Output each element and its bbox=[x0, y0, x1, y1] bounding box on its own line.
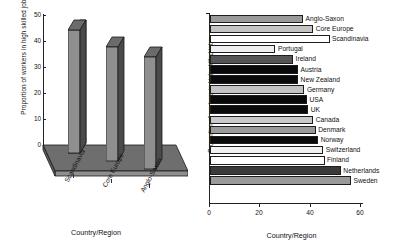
left-chart-y-axis-label: Proportion of workers in high skilled jo… bbox=[20, 0, 27, 126]
bar-label-new-zealand: New Zealand bbox=[301, 75, 340, 85]
bar-anglo-saxon[interactable] bbox=[210, 15, 303, 24]
left-chart-ytick-mark-10 bbox=[43, 119, 46, 120]
bar-label-anglo-saxon: Anglo-Saxon bbox=[306, 14, 344, 24]
bar-denmark[interactable] bbox=[210, 126, 316, 135]
right-chart-xtick-mark-60 bbox=[360, 203, 361, 207]
bar-uk[interactable] bbox=[210, 105, 308, 114]
bar-ireland[interactable] bbox=[210, 55, 293, 64]
right-chart-xtick-mark-40 bbox=[310, 203, 311, 207]
right-chart-plot-area: 0 20 40 60 Anglo-SaxonCore EuropeScandin… bbox=[209, 13, 394, 209]
bar-label-finland: Finland bbox=[327, 155, 349, 165]
left-chart-ytick-mark-50 bbox=[43, 15, 46, 16]
left-chart-plot-area: 50 40 30 20 10 0 bbox=[30, 14, 188, 226]
bar-label-switzerland: Switzerland bbox=[326, 145, 361, 155]
right-chart-xtick-0: 0 bbox=[201, 209, 217, 216]
bar-norway[interactable] bbox=[210, 136, 318, 145]
left-chart-ytick-30: 30 bbox=[28, 63, 41, 70]
bar-label-scandinavia: Scandinavia bbox=[332, 34, 368, 44]
left-chart-ytick-mark-40 bbox=[43, 41, 46, 42]
bar-label-usa: USA bbox=[309, 95, 323, 105]
bar-label-ireland: Ireland bbox=[296, 54, 316, 64]
countries-horizontal-bar-chart: Proportion of workers in high skilled jo… bbox=[190, 0, 399, 248]
bar-label-norway: Norway bbox=[321, 135, 344, 145]
left-chart-x-axis-label: Country/Region bbox=[36, 228, 156, 237]
left-chart-ytick-20: 20 bbox=[28, 89, 41, 96]
bar-anglo-saxon-shape bbox=[144, 14, 174, 174]
left-chart-ytick-0: 0 bbox=[28, 141, 41, 148]
bar-label-core-europe: Core Europe bbox=[316, 24, 354, 34]
left-chart-ytick-40: 40 bbox=[28, 37, 41, 44]
left-chart-bar-core-europe[interactable] bbox=[106, 14, 136, 168]
bar-germany[interactable] bbox=[210, 85, 304, 94]
bar-label-denmark: Denmark bbox=[318, 125, 345, 135]
bar-label-uk: UK bbox=[311, 105, 320, 115]
bar-core-europe-shape bbox=[106, 14, 136, 164]
bar-label-sweden: Sweden bbox=[353, 176, 377, 186]
left-chart-y-axis-line bbox=[43, 14, 44, 145]
left-chart-ytick-50: 50 bbox=[28, 11, 41, 18]
regions-3d-column-chart: Proportion of workers in high skilled jo… bbox=[0, 0, 190, 248]
bar-scandinavia[interactable] bbox=[210, 35, 330, 44]
bar-new-zealand[interactable] bbox=[210, 75, 298, 84]
right-chart-xtick-mark-0 bbox=[209, 203, 210, 207]
bar-label-germany: Germany bbox=[307, 85, 335, 95]
right-chart-xtick-60: 60 bbox=[352, 209, 368, 216]
bar-core-europe[interactable] bbox=[210, 25, 313, 34]
bar-label-canada: Canada bbox=[316, 115, 339, 125]
bar-usa[interactable] bbox=[210, 95, 307, 104]
right-chart-xtick-20: 20 bbox=[251, 209, 267, 216]
bar-label-portugal: Portugal bbox=[278, 44, 303, 54]
bar-switzerland[interactable] bbox=[210, 146, 323, 155]
right-chart-x-axis-label: Country/Region bbox=[209, 231, 374, 240]
bar-netherlands[interactable] bbox=[210, 166, 341, 175]
right-chart-xtick-mark-20 bbox=[259, 203, 260, 207]
left-chart-ytick-10: 10 bbox=[28, 115, 41, 122]
right-chart-xtick-40: 40 bbox=[302, 209, 318, 216]
left-chart-ytick-mark-20 bbox=[43, 93, 46, 94]
bar-portugal[interactable] bbox=[210, 45, 275, 54]
left-chart-bar-anglo-saxon[interactable] bbox=[144, 14, 174, 178]
left-chart-bar-scandinavia[interactable] bbox=[68, 14, 98, 158]
bar-sweden[interactable] bbox=[210, 176, 351, 185]
chart-figure: Proportion of workers in high skilled jo… bbox=[0, 0, 399, 248]
bar-canada[interactable] bbox=[210, 116, 313, 125]
bar-finland[interactable] bbox=[210, 156, 325, 165]
bar-scandinavia-shape bbox=[68, 14, 98, 154]
bar-label-austria: Austria bbox=[301, 65, 322, 75]
bar-label-netherlands: Netherlands bbox=[343, 166, 379, 176]
left-chart-ytick-mark-30 bbox=[43, 67, 46, 68]
right-chart-x-axis-line bbox=[209, 203, 363, 204]
bar-austria[interactable] bbox=[210, 65, 298, 74]
